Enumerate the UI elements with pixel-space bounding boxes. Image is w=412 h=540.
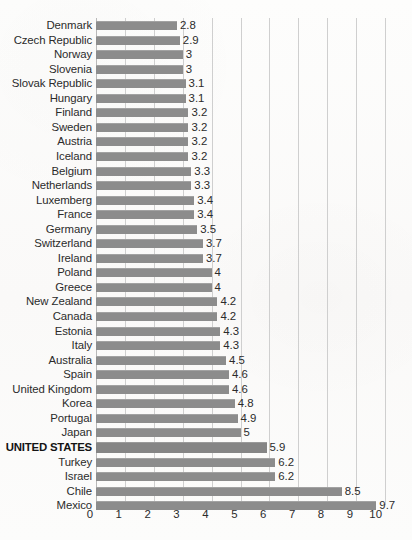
bar-row: Japan5 [0, 425, 412, 440]
bar-row: Australia4.5 [0, 353, 412, 368]
category-label: Sweden [0, 120, 92, 135]
bar-value-label: 4.9 [241, 411, 257, 426]
bar-row: Switzerland3.7 [0, 236, 412, 251]
bar-value-label: 3.4 [197, 193, 213, 208]
bar-value-label: 3 [186, 47, 192, 62]
bar [96, 327, 220, 336]
bar-value-label: 5.9 [270, 440, 286, 455]
bar [96, 137, 188, 146]
bar-value-label: 3.1 [189, 76, 205, 91]
bar [96, 94, 186, 103]
bar-row: Ireland3.7 [0, 251, 412, 266]
category-label: Slovenia [0, 62, 92, 77]
bar [96, 123, 188, 132]
bar-row: Spain4.6 [0, 367, 412, 382]
category-label: Turkey [0, 455, 92, 470]
bar-row: Czech Republic2.9 [0, 33, 412, 48]
bar-value-label: 4.3 [223, 324, 239, 339]
bar-row: Poland4 [0, 265, 412, 280]
bar-value-label: 4.3 [223, 338, 239, 353]
bar-row: New Zealand4.2 [0, 294, 412, 309]
bar [96, 254, 203, 263]
bar [96, 472, 275, 481]
bar-value-label: 3.7 [206, 236, 222, 251]
bar [96, 268, 212, 277]
category-label: Netherlands [0, 178, 92, 193]
bar-row: Israel6.2 [0, 469, 412, 484]
category-label: Czech Republic [0, 33, 92, 48]
bar [96, 297, 217, 306]
category-label: Japan [0, 425, 92, 440]
bar [96, 65, 183, 74]
bar [96, 370, 229, 379]
category-label: Hungary [0, 91, 92, 106]
bar-row: Iceland3.2 [0, 149, 412, 164]
category-label: Italy [0, 338, 92, 353]
bar [96, 458, 275, 467]
category-label: Australia [0, 353, 92, 368]
bar [96, 283, 212, 292]
bar-row: Canada4.2 [0, 309, 412, 324]
bar-value-label: 6.2 [278, 469, 294, 484]
category-label: Estonia [0, 324, 92, 339]
bar [96, 181, 191, 190]
bar [96, 414, 238, 423]
category-label: France [0, 207, 92, 222]
bar [96, 50, 183, 59]
bar-row: Luxemberg3.4 [0, 193, 412, 208]
category-label: Norway [0, 47, 92, 62]
bar-row: Hungary3.1 [0, 91, 412, 106]
bar-value-label: 4.2 [220, 294, 236, 309]
bar [96, 428, 241, 437]
bar [96, 225, 197, 234]
bar [96, 21, 177, 30]
bar [96, 356, 226, 365]
category-label: Poland [0, 265, 92, 280]
bar [96, 152, 188, 161]
bar-value-label: 3.2 [191, 105, 207, 120]
bar-value-label: 4.5 [229, 353, 245, 368]
category-label: Austria [0, 134, 92, 149]
bar-row: Turkey6.2 [0, 455, 412, 470]
category-label: Greece [0, 280, 92, 295]
bar [96, 385, 229, 394]
bar-value-label: 4.2 [220, 309, 236, 324]
bar [96, 399, 235, 408]
category-label: Slovak Republic [0, 76, 92, 91]
bar-value-label: 3.7 [206, 251, 222, 266]
bar [96, 79, 186, 88]
category-label: Israel [0, 469, 92, 484]
bar [96, 167, 191, 176]
category-label: Chile [0, 484, 92, 499]
bar [96, 196, 194, 205]
bar-value-label: 2.9 [183, 33, 199, 48]
bar-value-label: 4.6 [232, 367, 248, 382]
bar-row: France3.4 [0, 207, 412, 222]
bar-value-label: 2.8 [180, 18, 196, 33]
bar-value-label: 6.2 [278, 455, 294, 470]
bar-row-highlighted: UNITED STATES5.9 [0, 440, 412, 455]
bar-row: Austria3.2 [0, 134, 412, 149]
bar-value-label: 4.6 [232, 382, 248, 397]
bar-value-label: 5 [244, 425, 250, 440]
category-label: Switzerland [0, 236, 92, 251]
bar-value-label: 3.4 [197, 207, 213, 222]
bar-row: Korea4.8 [0, 396, 412, 411]
bar-value-label: 3.2 [191, 134, 207, 149]
bar-value-label: 8.5 [345, 484, 361, 499]
category-label: Germany [0, 222, 92, 237]
bar-rows-container: Denmark2.8Czech Republic2.9Norway3Sloven… [0, 18, 412, 505]
bar-value-label: 4 [215, 265, 221, 280]
bar-value-label: 3.2 [191, 120, 207, 135]
x-tick-label: 10 [345, 506, 382, 522]
bar [96, 312, 217, 321]
bar-row: Estonia4.3 [0, 324, 412, 339]
bar-row: Slovak Republic3.1 [0, 76, 412, 91]
bar [96, 442, 267, 453]
bar-value-label: 4.8 [238, 396, 254, 411]
category-label: Portugal [0, 411, 92, 426]
category-label: Korea [0, 396, 92, 411]
category-label: Iceland [0, 149, 92, 164]
bar [96, 341, 220, 350]
bar-value-label: 3.5 [200, 222, 216, 237]
